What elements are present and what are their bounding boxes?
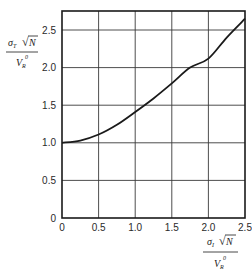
svg-text:0: 0 (223, 255, 226, 261)
svg-text:√: √ (22, 35, 29, 49)
y-axis-label: σT √ N VR 0 (6, 35, 38, 69)
grid (62, 11, 245, 218)
y-tick-labels: 00.51.01.52.02.5 (42, 25, 56, 224)
svg-text:0: 0 (25, 54, 28, 60)
svg-text:σT: σT (8, 37, 17, 49)
x-tick-labels: 00.51.01.52.02.5 (59, 222, 252, 233)
svg-text:√: √ (219, 234, 226, 248)
x-tick-label: 1.5 (165, 222, 179, 233)
x-tick-label: 1.0 (128, 222, 142, 233)
x-tick-label: 0 (59, 222, 65, 233)
chart: 00.51.01.52.02.5 00.51.01.52.02.5 σT √ N… (0, 0, 252, 279)
x-tick-label: 0.5 (92, 222, 106, 233)
x-tick-label: 2.5 (238, 222, 252, 233)
y-tick-label: 1.5 (42, 100, 56, 111)
svg-text:σI: σI (207, 236, 215, 248)
y-tick-label: 0 (50, 213, 56, 224)
y-tick-label: 1.0 (42, 137, 56, 148)
data-curve (62, 19, 245, 143)
frame (62, 11, 245, 218)
x-axis-label: σI √ N VR 0 (203, 234, 238, 270)
y-tick-label: 0.5 (42, 175, 56, 186)
y-tick-label: 2.0 (42, 62, 56, 73)
svg-text:N: N (225, 236, 234, 247)
y-tick-label: 2.5 (42, 25, 56, 36)
svg-text:N: N (28, 37, 37, 48)
x-tick-label: 2.0 (201, 222, 215, 233)
